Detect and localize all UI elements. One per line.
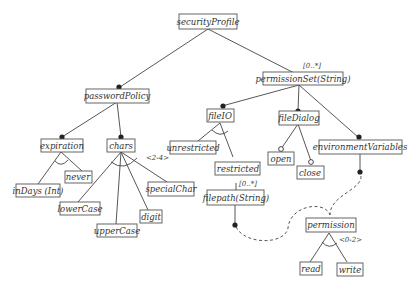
node-lowerCase: lowerCase <box>57 202 102 215</box>
node-permissionSet: permissionSet(String) <box>255 72 350 85</box>
svg-text:read: read <box>301 264 321 274</box>
node-expiration: expiration <box>40 139 84 152</box>
svg-text:fileIO: fileIO <box>207 111 232 121</box>
svg-text:close: close <box>299 168 321 178</box>
svg-text:never: never <box>66 172 91 182</box>
node-unrestricted: unrestricted <box>166 141 220 154</box>
node-passwordPolicy: passwordPolicy <box>84 89 151 103</box>
node-read: read <box>300 262 322 275</box>
svg-text:chars: chars <box>109 141 133 151</box>
svg-text:securityProfile: securityProfile <box>177 17 240 27</box>
node-specialChar: specialChar <box>145 182 197 196</box>
node-open: open <box>268 152 294 165</box>
svg-text:lowerCase: lowerCase <box>57 204 102 214</box>
svg-text:digit: digit <box>141 212 161 222</box>
node-filepath: filepath(String) <box>202 190 269 205</box>
node-inDays: inDays (Int) <box>13 184 64 197</box>
svg-text:fileDialog: fileDialog <box>277 113 320 123</box>
svg-text:passwordPolicy: passwordPolicy <box>84 91 151 101</box>
svg-text:open: open <box>270 154 291 164</box>
permission-group-cardinality: <0-2> <box>339 236 362 244</box>
filepath-cardinality: [0..*] <box>239 180 257 188</box>
svg-text:expiration: expiration <box>40 141 84 151</box>
node-fileIO: fileIO <box>207 109 234 122</box>
svg-text:upperCase: upperCase <box>94 226 140 236</box>
svg-text:permissionSet(String): permissionSet(String) <box>255 74 350 84</box>
svg-text:inDays (Int): inDays (Int) <box>13 186 64 196</box>
node-permission: permission <box>306 218 356 232</box>
node-upperCase: upperCase <box>94 224 140 237</box>
node-digit: digit <box>140 210 162 223</box>
svg-text:specialChar: specialChar <box>145 184 197 194</box>
svg-text:restricted: restricted <box>217 164 260 174</box>
node-never: never <box>65 171 92 183</box>
node-securityProfile: securityProfile <box>177 14 240 29</box>
svg-text:unrestricted: unrestricted <box>166 143 220 153</box>
svg-text:permission: permission <box>307 220 354 230</box>
svg-text:filepath(String): filepath(String) <box>202 193 269 203</box>
node-write: write <box>337 263 363 276</box>
node-fileDialog: fileDialog <box>277 111 320 125</box>
svg-text:environmentVariables: environmentVariables <box>313 142 408 152</box>
feature-diagram: securityProfile passwordPolicy permissio… <box>0 0 418 290</box>
node-restricted: restricted <box>215 162 260 175</box>
permissionset-cardinality: [0..*] <box>303 62 321 70</box>
node-close: close <box>297 166 324 179</box>
node-environmentVariables: environmentVariables <box>313 140 408 154</box>
node-chars: chars <box>107 139 135 152</box>
chars-group-cardinality: <2-4> <box>146 154 169 162</box>
svg-text:write: write <box>339 265 362 275</box>
